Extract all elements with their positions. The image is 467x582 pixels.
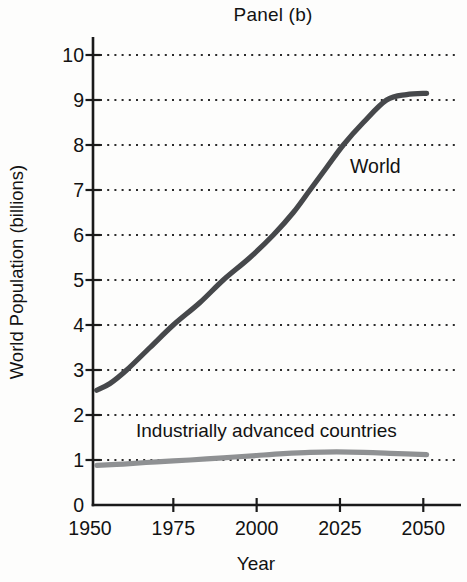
x-tick-label-2025: 2025 (308, 517, 372, 540)
x-tick-label-1950: 1950 (58, 517, 122, 540)
y-tick-label-6: 6 (36, 224, 84, 246)
y-tick-label-1: 1 (36, 449, 84, 471)
series-label-industrially-advanced-countries: Industrially advanced countries (136, 420, 397, 442)
population-chart-panel-b: Panel (b) World Population (billions) 01… (0, 0, 467, 582)
x-tick-label-2000: 2000 (225, 517, 289, 540)
y-tick-label-7: 7 (36, 179, 84, 201)
world-line (97, 93, 427, 390)
y-tick-label-3: 3 (36, 359, 84, 381)
y-tick-label-4: 4 (36, 314, 84, 336)
y-tick-label-9: 9 (36, 89, 84, 111)
y-tick-label-0: 0 (36, 494, 84, 516)
x-tick-label-2050: 2050 (391, 517, 455, 540)
series-label-world: World (350, 155, 401, 178)
y-tick-label-8: 8 (36, 134, 84, 156)
y-tick-label-5: 5 (36, 269, 84, 291)
x-axis-title: Year (56, 553, 456, 575)
y-tick-label-10: 10 (36, 44, 84, 66)
x-tick-label-1975: 1975 (141, 517, 205, 540)
y-tick-label-2: 2 (36, 404, 84, 426)
industrially-advanced-countries-line (97, 452, 427, 466)
